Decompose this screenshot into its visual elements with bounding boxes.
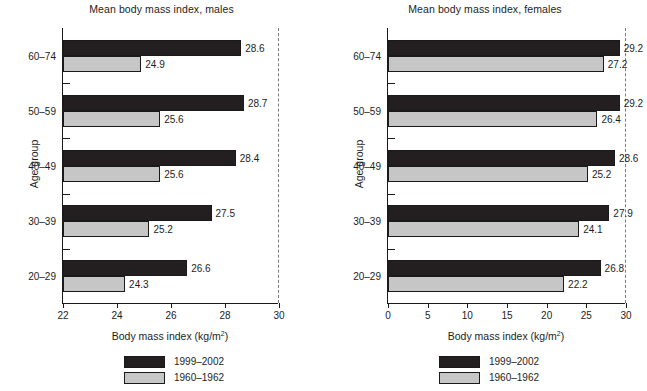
legend-item-older: 1960–1962 xyxy=(124,371,224,384)
bar-value-label: 29.2 xyxy=(624,42,643,53)
bar-older xyxy=(388,221,579,237)
plot-right-boundary-males xyxy=(278,28,279,303)
plot-area-females: 05101520253060–7429.227.250–5929.226.440… xyxy=(387,28,625,304)
y-group-tick xyxy=(63,249,70,250)
y-group-tick xyxy=(63,138,70,139)
y-group-tick xyxy=(388,83,395,84)
bar-value-label: 26.4 xyxy=(601,113,620,124)
y-group-tick xyxy=(63,194,70,195)
legend-label-recent: 1999–2002 xyxy=(174,356,224,367)
y-tick-label: 50–59 xyxy=(353,105,381,116)
x-axis-title-males: Body mass index (kg/m2) xyxy=(62,330,278,342)
bar-value-label: 28.7 xyxy=(248,97,267,108)
y-tick-label: 50–59 xyxy=(28,105,56,116)
bar-value-label: 27.9 xyxy=(613,208,632,219)
y-group-tick xyxy=(388,194,395,195)
y-tick-label: 60–74 xyxy=(28,50,56,61)
bar-recent xyxy=(388,40,620,56)
y-tick-label: 30–39 xyxy=(353,216,381,227)
x-tick xyxy=(547,303,548,308)
y-axis-title-females: Age group xyxy=(353,134,365,194)
plot-area-males: 222426283060–7428.624.950–5928.725.640–4… xyxy=(62,28,278,304)
bar-recent xyxy=(63,95,244,111)
bar-older xyxy=(63,111,160,127)
bar-recent xyxy=(63,150,236,166)
legend-males: 1999–2002 1960–1962 xyxy=(124,355,224,387)
bar-value-label: 25.2 xyxy=(592,169,611,180)
bar-value-label: 24.3 xyxy=(129,279,148,290)
panel-males: Mean body mass index, males 222426283060… xyxy=(0,0,323,391)
x-tick xyxy=(428,303,429,308)
figure-two-panel-bmi-bar-charts: Mean body mass index, males 222426283060… xyxy=(0,0,647,391)
x-tick-label: 28 xyxy=(219,310,230,321)
y-group-tick xyxy=(388,138,395,139)
x-tick xyxy=(117,303,118,308)
bar-value-label: 28.6 xyxy=(619,153,638,164)
x-tick xyxy=(626,303,627,308)
bar-recent xyxy=(388,150,615,166)
x-tick xyxy=(225,303,226,308)
x-tick-label: 24 xyxy=(111,310,122,321)
bar-value-label: 25.6 xyxy=(164,169,183,180)
x-tick-label: 22 xyxy=(57,310,68,321)
bar-value-label: 27.5 xyxy=(216,208,235,219)
bar-value-label: 28.6 xyxy=(245,42,264,53)
legend-label-older: 1960–1962 xyxy=(489,372,539,383)
legend-swatch-older-icon xyxy=(124,372,165,384)
x-axis-title-females: Body mass index (kg/m2) xyxy=(387,330,625,342)
y-tick-label: 20–29 xyxy=(353,271,381,282)
bar-older xyxy=(388,166,588,182)
bar-value-label: 27.2 xyxy=(608,58,627,69)
bar-recent xyxy=(63,260,187,276)
bar-value-label: 24.1 xyxy=(583,224,602,235)
legend-swatch-recent-icon xyxy=(439,356,480,368)
bar-value-label: 26.6 xyxy=(191,263,210,274)
bar-recent xyxy=(388,95,620,111)
bar-older xyxy=(63,56,141,72)
bar-value-label: 29.2 xyxy=(624,97,643,108)
bar-older xyxy=(388,56,604,72)
x-tick xyxy=(63,303,64,308)
bar-recent xyxy=(388,260,601,276)
legend-item-recent: 1999–2002 xyxy=(439,355,539,368)
panel-title-males: Mean body mass index, males xyxy=(0,3,323,15)
x-tick-label: 25 xyxy=(581,310,592,321)
x-tick xyxy=(507,303,508,308)
x-tick-label: 30 xyxy=(620,310,631,321)
y-tick-label: 60–74 xyxy=(353,50,381,61)
legend-females: 1999–2002 1960–1962 xyxy=(439,355,539,387)
bar-older xyxy=(63,166,160,182)
bar-older xyxy=(63,221,149,237)
bar-value-label: 25.6 xyxy=(164,113,183,124)
legend-label-older: 1960–1962 xyxy=(174,372,224,383)
bar-value-label: 24.9 xyxy=(145,58,164,69)
x-tick xyxy=(586,303,587,308)
bar-value-label: 25.2 xyxy=(153,224,172,235)
y-tick-label: 20–29 xyxy=(28,271,56,282)
y-group-tick xyxy=(63,83,70,84)
bar-older xyxy=(388,276,564,292)
y-tick-label: 30–39 xyxy=(28,216,56,227)
x-tick xyxy=(171,303,172,308)
x-tick-label: 30 xyxy=(273,310,284,321)
panel-females: Mean body mass index, females 0510152025… xyxy=(323,0,647,391)
x-tick-label: 15 xyxy=(501,310,512,321)
bar-value-label: 26.8 xyxy=(605,263,624,274)
bar-recent xyxy=(63,40,241,56)
bar-older xyxy=(388,111,597,127)
x-tick-label: 26 xyxy=(165,310,176,321)
panel-title-females: Mean body mass index, females xyxy=(323,3,647,15)
bar-older xyxy=(63,276,125,292)
legend-item-recent: 1999–2002 xyxy=(124,355,224,368)
legend-swatch-recent-icon xyxy=(124,356,165,368)
legend-item-older: 1960–1962 xyxy=(439,371,539,384)
bar-value-label: 28.4 xyxy=(240,153,259,164)
bar-value-label: 22.2 xyxy=(568,279,587,290)
y-axis-title-males: Age group xyxy=(28,134,40,194)
bar-recent xyxy=(388,205,609,221)
x-tick-label: 20 xyxy=(541,310,552,321)
legend-swatch-older-icon xyxy=(439,372,480,384)
bar-recent xyxy=(63,205,212,221)
x-tick xyxy=(388,303,389,308)
x-tick-label: 5 xyxy=(425,310,431,321)
